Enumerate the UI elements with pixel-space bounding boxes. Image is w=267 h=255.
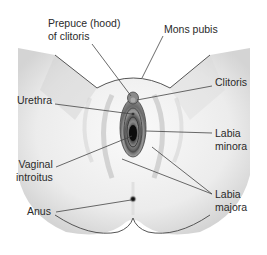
vaginal-opening: [129, 125, 137, 141]
label-labia-minora-line2: minora: [215, 140, 247, 153]
label-labia-majora: Labia majora: [215, 188, 247, 214]
label-mons-pubis-text: Mons pubis: [164, 23, 218, 35]
label-anus-text: Anus: [27, 205, 51, 217]
label-clitoris-text: Clitoris: [215, 76, 247, 88]
label-vaginal-line1: Vaginal: [16, 158, 53, 171]
leader-mons-pubis: [142, 36, 163, 78]
label-urethra: Urethra: [17, 94, 52, 107]
label-urethra-text: Urethra: [17, 94, 52, 106]
label-vaginal-line2: introitus: [16, 171, 53, 184]
label-vaginal-introitus: Vaginal introitus: [16, 158, 53, 184]
clitoris-glans: [131, 98, 136, 103]
label-anus: Anus: [27, 205, 51, 218]
label-prepuce: Prepuce (hood) of clitoris: [48, 17, 120, 43]
label-prepuce-line1: Prepuce (hood): [48, 17, 120, 30]
label-clitoris: Clitoris: [215, 76, 247, 89]
anus-center: [131, 197, 134, 200]
label-labia-majora-line2: majora: [215, 201, 247, 214]
label-labia-minora-line1: Labia: [215, 127, 247, 140]
label-labia-minora: Labia minora: [215, 127, 247, 153]
label-mons-pubis: Mons pubis: [164, 23, 218, 36]
label-prepuce-line2: of clitoris: [48, 30, 120, 43]
label-labia-majora-line1: Labia: [215, 188, 247, 201]
